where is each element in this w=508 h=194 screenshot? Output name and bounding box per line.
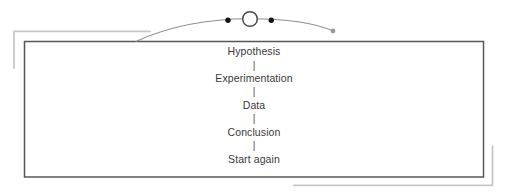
diagram-canvas: Hypothesis | Experimentation | Data | Co… [0, 0, 508, 194]
flow-step-start-again: Start again [24, 153, 484, 167]
arc-end-dot [331, 29, 336, 34]
loop-arc [136, 19, 333, 42]
flow-steps: Hypothesis | Experimentation | Data | Co… [24, 45, 484, 166]
arc-dot-left [225, 18, 230, 23]
arc-open-circle [243, 12, 258, 27]
flow-step-data: Data [24, 99, 484, 113]
flow-connector: | [24, 139, 484, 152]
flow-step-hypothesis: Hypothesis [24, 45, 484, 59]
flow-step-experimentation: Experimentation [24, 72, 484, 86]
flow-connector: | [24, 112, 484, 125]
flow-step-conclusion: Conclusion [24, 126, 484, 140]
flow-connector: | [24, 85, 484, 98]
flow-connector: | [24, 59, 484, 72]
arc-dot-right [269, 18, 274, 23]
